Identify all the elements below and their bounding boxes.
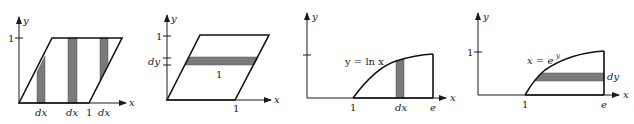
horizontal-strip: [185, 57, 258, 65]
x-tick-label-1: 1: [350, 102, 356, 113]
y-axis-label: y: [482, 11, 489, 22]
vertical-strip: [396, 59, 404, 98]
vertical-strip-middle: [68, 38, 77, 103]
x-tick-label: 1: [233, 103, 239, 114]
panel-2: y x 1 dy 1 1: [148, 13, 280, 114]
x-axis-label: x: [274, 94, 280, 105]
dx-label-3: dx: [98, 107, 110, 118]
dy-label: dy: [148, 56, 160, 67]
panel-4: y x 1 x = e y dy 1 e: [467, 11, 629, 110]
y-tick-label: 1: [467, 47, 473, 58]
dx-label-1: dx: [35, 107, 47, 118]
y-axis-label: y: [22, 15, 29, 26]
dy-label: dy: [607, 71, 619, 82]
y-tick-label: 1: [8, 33, 14, 44]
x-tick-label-e: e: [601, 99, 607, 110]
y-axis-label: y: [311, 11, 318, 22]
x-axis-label: x: [450, 92, 456, 103]
panel-3: y x y = ln x 1 dx e: [303, 11, 456, 113]
parallelogram: [167, 35, 269, 100]
x-tick-label-e: e: [430, 102, 436, 113]
vertical-strip-left: [37, 56, 45, 103]
y-axis-label: y: [170, 13, 177, 24]
horizontal-strip: [534, 73, 604, 81]
curve-label: x = e: [527, 55, 553, 66]
curve-label: y = ln x: [344, 56, 384, 67]
strip-length-label: 1: [216, 69, 222, 80]
x-tick-label-1: 1: [86, 107, 92, 118]
panel-1: y x 1 dx dx 1 dx: [8, 15, 135, 118]
x-tick-label-1: 1: [522, 99, 528, 110]
figure-canvas: y x 1 dx dx 1 dx y x 1 dy 1 1 y x y = ln…: [0, 0, 634, 124]
x-axis-label: x: [129, 97, 135, 108]
x-axis-label: x: [623, 89, 629, 100]
dx-label: dx: [395, 102, 407, 113]
dx-label-2: dx: [66, 107, 78, 118]
y-tick-label: 1: [156, 31, 162, 42]
curve-label-superscript: y: [555, 52, 561, 60]
